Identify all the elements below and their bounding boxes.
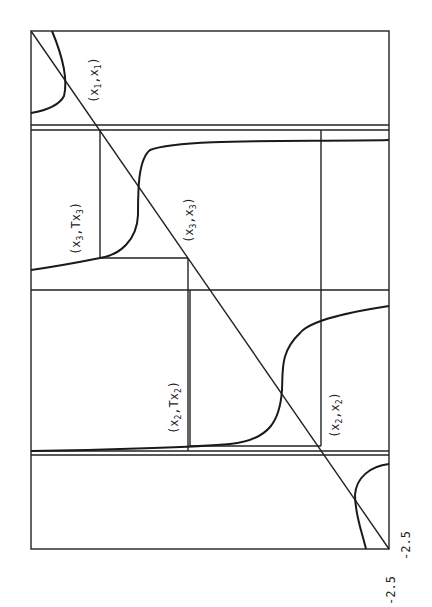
label-x2Tx2: (x2,Tx2) [167, 381, 183, 434]
label-x1x1: (x1,x1) [87, 57, 103, 103]
svg-text:(x3,x3): (x3,x3) [182, 197, 198, 243]
svg-text:(x3,Tx3): (x3,Tx3) [69, 202, 85, 255]
axis-label-y-min: -2.5 [384, 576, 398, 605]
svg-text:-2.5: -2.5 [399, 531, 413, 560]
axis-label-x-min: -2.5 [399, 531, 413, 560]
figure-canvas: (x1,x1) (x3,Tx3) (x3,x3) (x2,Tx2) (x2,x2… [0, 0, 432, 607]
svg-text:(x2,x2): (x2,x2) [328, 392, 344, 438]
curve-branch-upper [31, 140, 389, 270]
label-x3Tx3: (x3,Tx3) [69, 202, 85, 255]
svg-text:(x2,Tx2): (x2,Tx2) [167, 381, 183, 434]
label-x3x3: (x3,x3) [182, 197, 198, 243]
label-x2x2: (x2,x2) [328, 392, 344, 438]
svg-text:(x1,x1): (x1,x1) [87, 57, 103, 103]
diagram-svg: (x1,x1) (x3,Tx3) (x3,x3) (x2,Tx2) (x2,x2… [0, 0, 432, 607]
svg-text:-2.5: -2.5 [384, 576, 398, 605]
